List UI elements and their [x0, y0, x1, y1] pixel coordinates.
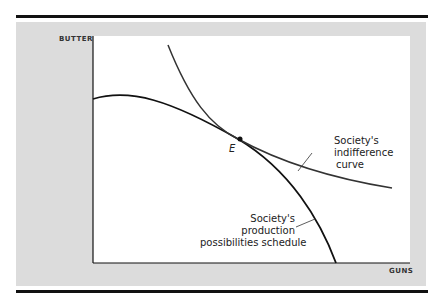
equilibrium-point	[238, 137, 243, 142]
x-axis-label: GUNS	[389, 267, 413, 275]
indifference-label: Society's indifference curve	[334, 135, 393, 171]
point-label: E	[229, 143, 235, 155]
ppf-label: Society's production possibilities sched…	[200, 213, 295, 249]
y-axis-label: BUTTER	[59, 35, 93, 43]
